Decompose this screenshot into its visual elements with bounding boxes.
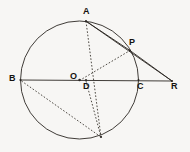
segment-O-P <box>80 51 131 81</box>
geometry-canvas <box>0 0 190 152</box>
segment-A-Q <box>86 21 101 137</box>
point-O <box>78 79 80 81</box>
point-Q <box>100 136 102 138</box>
point-label-P: P <box>129 38 135 47</box>
segment-A-R <box>86 21 172 81</box>
point-label-O: O <box>70 72 77 81</box>
point-P <box>129 49 131 51</box>
point-B <box>19 79 21 81</box>
point-label-D: D <box>83 82 90 91</box>
point-label-R: R <box>171 82 178 91</box>
point-label-B: B <box>9 74 16 83</box>
point-A <box>85 20 87 22</box>
geometry-diagram: A P B O D C R <box>0 0 190 152</box>
point-label-C: C <box>137 82 144 91</box>
segment-B-R <box>21 80 173 81</box>
point-label-A: A <box>83 7 90 16</box>
